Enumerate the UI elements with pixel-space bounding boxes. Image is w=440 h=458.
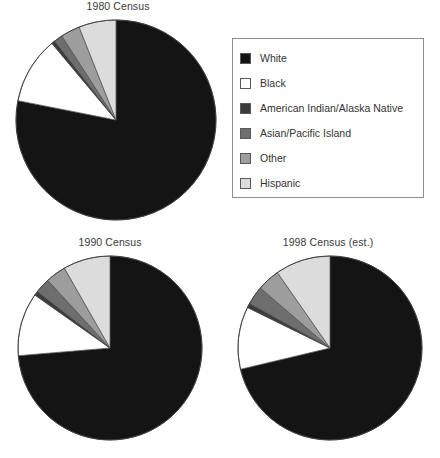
legend-item-label: Asian/Pacific Island [260,127,351,139]
legend-item: Asian/Pacific Island [240,121,418,145]
pie-chart-1990 [0,252,220,452]
legend-item-label: Other [260,152,286,164]
pie-title-1990: 1990 Census [0,236,220,248]
legend-swatch-icon [240,53,251,64]
legend-item: Black [240,71,418,95]
pie-panel-1990: 1990 Census [0,236,220,458]
census-pie-chart-figure: 1980 Census 1990 Census 1998 Census (est… [0,0,440,458]
pie-panel-1980: 1980 Census [4,0,232,226]
legend-item: Other [240,146,418,170]
pie-chart-1998 [216,252,440,452]
pie-chart-1980 [4,16,232,226]
legend-swatch-icon [240,78,251,89]
pie-title-1998: 1998 Census (est.) [216,236,440,248]
legend-swatch-icon [240,103,251,114]
legend-item: Hispanic [240,171,418,195]
legend-item-list: WhiteBlackAmerican Indian/Alaska NativeA… [240,46,418,196]
pie-title-1980: 1980 Census [4,0,232,12]
legend-swatch-icon [240,178,251,189]
legend-swatch-icon [240,128,251,139]
legend-item: White [240,46,418,70]
chart-legend: WhiteBlackAmerican Indian/Alaska NativeA… [232,38,424,198]
pie-panel-1998: 1998 Census (est.) [216,236,440,458]
legend-item-label: American Indian/Alaska Native [260,102,403,114]
legend-item-label: White [260,52,287,64]
legend-item-label: Black [260,77,286,89]
legend-item: American Indian/Alaska Native [240,96,418,120]
legend-item-label: Hispanic [260,177,300,189]
legend-swatch-icon [240,153,251,164]
